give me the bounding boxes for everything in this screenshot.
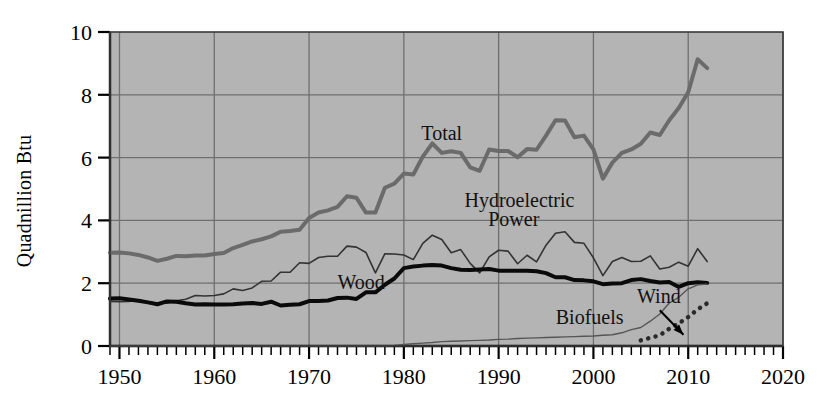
- y-tick-label: 10: [70, 20, 92, 45]
- x-axis-tick-labels: 19501960197019801990200020102020: [97, 364, 805, 389]
- x-tick-label: 2000: [571, 364, 615, 389]
- plot-background: [110, 32, 783, 346]
- x-tick-label: 2020: [761, 364, 805, 389]
- x-tick-label: 1950: [97, 364, 141, 389]
- y-tick-label: 8: [81, 83, 92, 108]
- x-tick-label: 1970: [287, 364, 331, 389]
- x-tick-label: 1960: [192, 364, 236, 389]
- chart-figure: Quadnillion Btu TotalHydroelectricPowerW…: [0, 0, 835, 402]
- x-axis-minor-ticks: [110, 346, 783, 359]
- y-tick-label: 2: [81, 271, 92, 296]
- annotation-power: Power: [488, 208, 539, 230]
- y-tick-label: 6: [81, 146, 92, 171]
- plot-background-group: [110, 32, 783, 346]
- annotation-biofuels: Biofuels: [556, 306, 624, 328]
- annotation-total: Total: [421, 122, 462, 144]
- y-axis-tick-labels: 0246810: [70, 20, 92, 359]
- x-tick-label: 2010: [666, 364, 710, 389]
- annotation-wind: Wind: [637, 285, 681, 307]
- y-tick-label: 4: [81, 208, 92, 233]
- x-tick-label: 1990: [477, 364, 521, 389]
- annotation-wood: Wood: [338, 271, 385, 293]
- x-tick-label: 1980: [382, 364, 426, 389]
- y-tick-label: 0: [81, 334, 92, 359]
- chart-plot: TotalHydroelectricPowerWoodBiofuelsWind …: [0, 0, 835, 402]
